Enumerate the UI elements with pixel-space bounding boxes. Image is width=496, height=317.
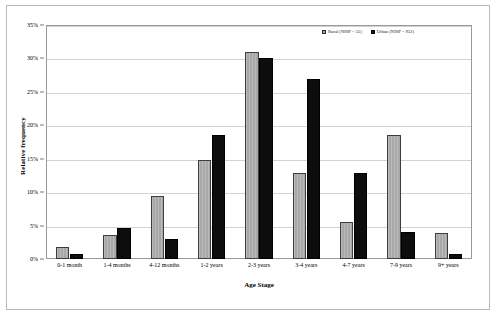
bar-urban[interactable] (449, 254, 463, 259)
x-tick-label: 4-7 years (343, 261, 365, 269)
x-tick-label: 9+ years (438, 261, 459, 269)
y-axis: 0%5%10%15%20%25%30%35% (0, 25, 44, 259)
x-tick-label: 2-3 years (248, 261, 270, 269)
bar-group (235, 25, 282, 259)
x-axis: 0-1 month1-4 months4-12 months1-2 years2… (46, 261, 472, 277)
bar-rural[interactable] (103, 235, 117, 259)
bar-rural[interactable] (151, 196, 165, 259)
bar-rural[interactable] (435, 233, 449, 259)
x-tick-label: 4-12 months (149, 261, 179, 269)
bar-group (425, 25, 472, 259)
legend-item[interactable]: Urban (NISP = 952) (371, 29, 414, 35)
y-tick-mark (40, 225, 44, 226)
bar-urban[interactable] (165, 239, 179, 259)
chart-figure: Relative frequency 0%5%10%15%20%25%30%35… (0, 0, 496, 317)
x-tick-label: 1-4 months (103, 261, 130, 269)
x-tick-label: 3-4 years (295, 261, 317, 269)
x-tick-label: 7-9 years (390, 261, 412, 269)
bar-urban[interactable] (212, 135, 226, 259)
bar-group (141, 25, 188, 259)
y-tick-mark (40, 125, 44, 126)
legend-item[interactable]: Rural (NISP = 55) (322, 29, 362, 35)
bar-rural[interactable] (340, 222, 354, 259)
legend-label: Rural (NISP = 55) (328, 29, 362, 35)
y-tick-label: 0% (30, 256, 38, 263)
y-tick-label: 10% (27, 189, 38, 196)
y-tick-mark (40, 158, 44, 159)
y-tick-label: 20% (27, 122, 38, 129)
bar-group (283, 25, 330, 259)
bar-rural[interactable] (198, 160, 212, 259)
x-axis-title: Age Stage (46, 281, 472, 289)
legend-swatch-icon (322, 30, 326, 34)
y-tick-mark (40, 192, 44, 193)
bar-urban[interactable] (70, 254, 84, 259)
bar-urban[interactable] (354, 173, 368, 259)
y-tick-mark (40, 91, 44, 92)
y-tick-mark (40, 25, 44, 26)
bar-group (93, 25, 140, 259)
legend-swatch-icon (371, 30, 375, 34)
bar-group (46, 25, 93, 259)
y-tick-label: 25% (27, 88, 38, 95)
y-tick-mark (40, 259, 44, 260)
y-tick-mark (40, 58, 44, 59)
y-tick-label: 35% (27, 22, 38, 29)
x-tick-label: 0-1 month (57, 261, 82, 269)
y-tick-label: 30% (27, 55, 38, 62)
bar-group (188, 25, 235, 259)
bar-rural[interactable] (293, 173, 307, 259)
y-tick-label: 5% (30, 222, 38, 229)
x-tick-label: 1-2 years (201, 261, 223, 269)
bar-rural[interactable] (387, 135, 401, 259)
bar-urban[interactable] (117, 228, 131, 259)
bar-group (377, 25, 424, 259)
bar-urban[interactable] (401, 232, 415, 259)
y-tick-label: 15% (27, 155, 38, 162)
bars-layer (46, 25, 472, 259)
legend-label: Urban (NISP = 952) (377, 29, 414, 35)
bar-urban[interactable] (307, 79, 321, 260)
bar-urban[interactable] (259, 58, 273, 259)
bar-group (330, 25, 377, 259)
bar-rural[interactable] (245, 52, 259, 259)
chart-legend: Rural (NISP = 55)Urban (NISP = 952) (322, 27, 414, 37)
bar-rural[interactable] (56, 247, 70, 259)
